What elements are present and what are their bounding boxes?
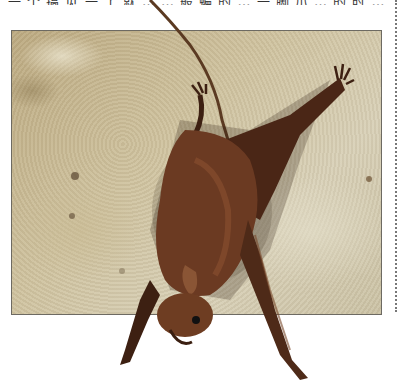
bat-illustration [0,0,400,382]
twig [150,0,228,140]
bat-claw-left [192,82,206,95]
bat-eye [192,316,200,324]
bat-head [157,293,213,337]
bat-wing-left [120,280,160,365]
